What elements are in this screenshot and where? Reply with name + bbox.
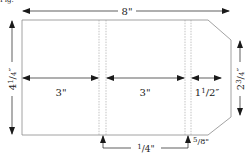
panel-1-width-label: 3": [56, 87, 67, 98]
gap-1-label: 1/4": [137, 143, 154, 154]
dimension-panel-3: 11/2″: [192, 78, 221, 98]
header-fragment: Fig.: [0, 0, 14, 4]
dimension-gaps: 1/4" 5/8": [103, 136, 209, 154]
height-left-label: 41/4″: [7, 68, 18, 91]
dimension-height-right: 23/4″: [235, 41, 246, 115]
panel-3-width-label: 11/2″: [195, 87, 220, 98]
folding-template-diagram: Fig. 8" 41/4″ 23/4″ 3" 3": [0, 0, 249, 157]
fold-lines: [99, 20, 191, 135]
dimension-panel-1: 3": [23, 78, 98, 98]
dimension-height-left: 41/4″: [7, 21, 18, 134]
template-outline: [22, 20, 231, 135]
height-right-label: 23/4″: [235, 68, 246, 91]
gap-2-label: 5/8": [193, 136, 209, 146]
panel-2-width-label: 3": [140, 87, 151, 98]
dimension-total-width: 8": [23, 6, 229, 17]
total-width-label: 8": [122, 6, 133, 17]
dimension-panel-2: 3": [107, 78, 184, 98]
